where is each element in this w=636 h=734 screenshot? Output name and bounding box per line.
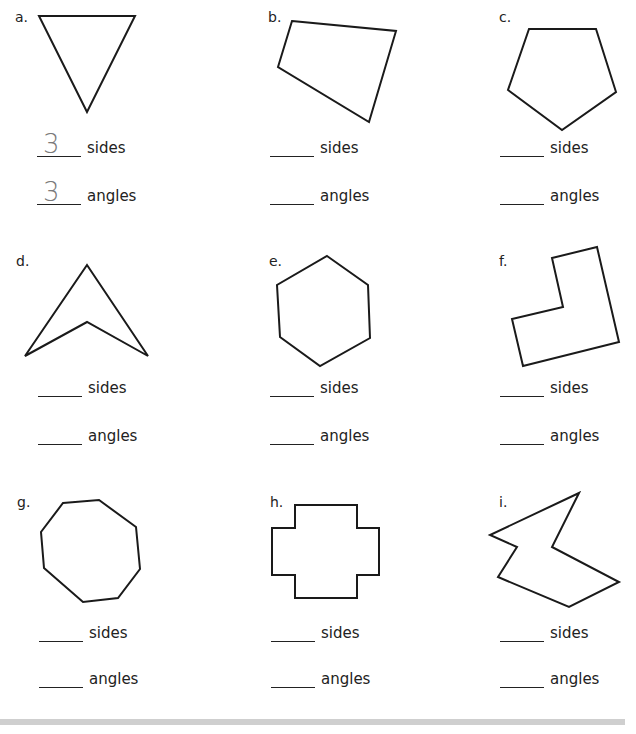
sides-label: sides (320, 379, 359, 397)
problem-g-sides-row: sides (39, 620, 128, 642)
problem-i-sides-blank[interactable] (500, 619, 544, 642)
problem-d-angles-row: angles (38, 423, 137, 445)
problem-i-letter: i. (499, 494, 507, 510)
problem-d-letter: d. (16, 253, 29, 269)
sides-label: sides (88, 379, 127, 397)
shape-e-hexagon (277, 256, 370, 366)
shape-b-quadrilateral (278, 21, 396, 122)
problem-h-angles-row: angles (271, 666, 370, 688)
problem-e-sides-blank[interactable] (270, 374, 314, 397)
problem-a-sides-blank[interactable]: 3 (37, 134, 81, 157)
shape-f-l-shape (512, 247, 619, 366)
shape-d-arrowhead (25, 265, 148, 356)
problem-f-angles-blank[interactable] (500, 422, 544, 445)
problem-c-letter: c. (499, 9, 511, 25)
problem-e-angles-blank[interactable] (270, 422, 314, 445)
problem-a-angles-answer: 3 (43, 179, 60, 205)
problem-i-sides-row: sides (500, 620, 589, 642)
angles-label: angles (550, 187, 599, 205)
problem-a-letter: a. (15, 9, 28, 25)
problem-b-letter: b. (268, 9, 281, 25)
problem-h-sides-blank[interactable] (271, 619, 315, 642)
shape-g-octagon (41, 500, 140, 602)
problem-a-sides-row: 3 sides (37, 135, 126, 157)
angles-label: angles (320, 187, 369, 205)
shape-a-triangle (39, 16, 135, 112)
sides-label: sides (89, 624, 128, 642)
problem-f-letter: f. (499, 253, 507, 269)
problem-f-sides-blank[interactable] (500, 374, 544, 397)
problem-e-letter: e. (269, 253, 282, 269)
problem-b-angles-blank[interactable] (270, 182, 314, 205)
problem-d-sides-blank[interactable] (38, 374, 82, 397)
shape-c-pentagon (508, 29, 616, 130)
angles-label: angles (320, 427, 369, 445)
shape-i-irregular (490, 493, 619, 607)
shape-h-cross (272, 505, 379, 598)
problem-d-sides-row: sides (38, 375, 127, 397)
problem-g-angles-blank[interactable] (39, 665, 83, 688)
problem-g-angles-row: angles (39, 666, 138, 688)
angles-label: angles (321, 670, 370, 688)
problem-i-angles-blank[interactable] (500, 665, 544, 688)
problem-b-angles-row: angles (270, 183, 369, 205)
problem-c-angles-row: angles (500, 183, 599, 205)
polygon-worksheet: a. b. c. 3 sides 3 angles sides angles s… (0, 0, 636, 734)
footer-divider (0, 719, 625, 725)
problem-e-sides-row: sides (270, 375, 359, 397)
problem-b-sides-blank[interactable] (270, 134, 314, 157)
angles-label: angles (89, 670, 138, 688)
problem-c-sides-row: sides (500, 135, 589, 157)
problem-a-angles-row: 3 angles (37, 183, 136, 205)
sides-label: sides (550, 624, 589, 642)
problem-a-angles-blank[interactable]: 3 (37, 182, 81, 205)
sides-label: sides (321, 624, 360, 642)
sides-label: sides (550, 139, 589, 157)
problem-d-angles-blank[interactable] (38, 422, 82, 445)
problem-e-angles-row: angles (270, 423, 369, 445)
angles-label: angles (550, 427, 599, 445)
sides-label: sides (320, 139, 359, 157)
problem-a-sides-answer: 3 (43, 131, 60, 157)
problem-c-angles-blank[interactable] (500, 182, 544, 205)
problem-f-angles-row: angles (500, 423, 599, 445)
problem-h-sides-row: sides (271, 620, 360, 642)
problem-g-letter: g. (17, 494, 30, 510)
angles-label: angles (88, 427, 137, 445)
problem-f-sides-row: sides (500, 375, 589, 397)
problem-i-angles-row: angles (500, 666, 599, 688)
sides-label: sides (87, 139, 126, 157)
problem-h-letter: h. (270, 494, 283, 510)
problem-b-sides-row: sides (270, 135, 359, 157)
problem-c-sides-blank[interactable] (500, 134, 544, 157)
sides-label: sides (550, 379, 589, 397)
problem-g-sides-blank[interactable] (39, 619, 83, 642)
angles-label: angles (550, 670, 599, 688)
angles-label: angles (87, 187, 136, 205)
problem-h-angles-blank[interactable] (271, 665, 315, 688)
